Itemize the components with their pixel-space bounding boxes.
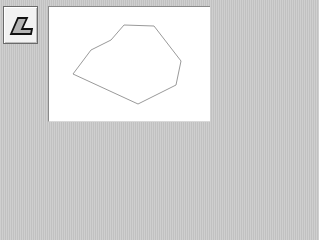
canvas-surface[interactable] bbox=[49, 7, 210, 123]
polygon-tool-icon bbox=[4, 7, 39, 45]
drawing-canvas[interactable] bbox=[48, 6, 210, 122]
drawn-polygon[interactable] bbox=[73, 25, 181, 104]
polygon-tool-button[interactable] bbox=[3, 6, 38, 44]
toolbar bbox=[0, 0, 46, 125]
